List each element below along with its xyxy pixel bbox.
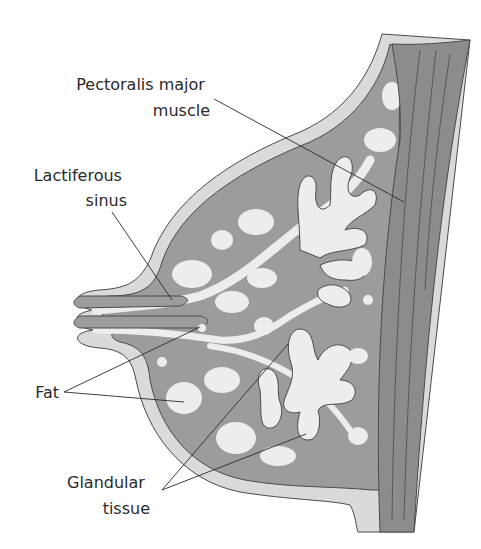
breast-anatomy-diagram: Pectoralis major muscle Lactiferous sinu… — [0, 0, 481, 549]
label-glandular-line2: tissue — [103, 499, 150, 518]
label-lactiferous-line1: Lactiferous — [34, 166, 122, 185]
label-fat-line1: Fat — [35, 383, 59, 402]
label-pectoralis: Pectoralis major muscle — [76, 75, 210, 120]
nipple-lobe-2 — [74, 316, 208, 328]
label-glandular: Glandular tissue — [67, 473, 150, 518]
label-fat: Fat — [35, 383, 59, 402]
label-pectoralis-line2: muscle — [153, 101, 210, 120]
label-glandular-line1: Glandular — [67, 473, 145, 492]
label-lactiferous-line2: sinus — [86, 191, 127, 210]
label-lactiferous: Lactiferous sinus — [34, 166, 127, 210]
label-pectoralis-line1: Pectoralis major — [76, 75, 205, 94]
